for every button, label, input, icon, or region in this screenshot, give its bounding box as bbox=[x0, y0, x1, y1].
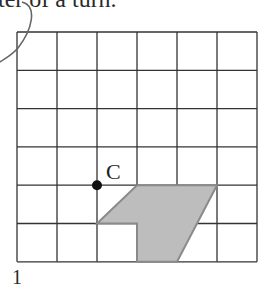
item-number: 1 bbox=[12, 266, 22, 288]
point-label-c: C bbox=[106, 159, 121, 184]
center-point-c bbox=[92, 180, 102, 190]
